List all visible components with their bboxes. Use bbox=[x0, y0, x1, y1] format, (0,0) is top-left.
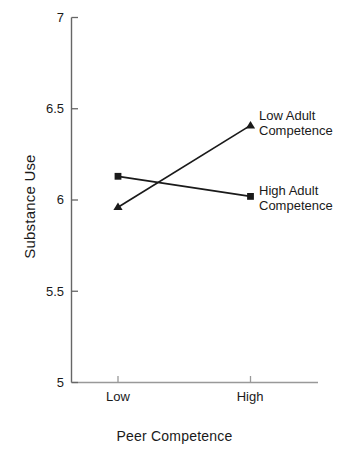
series-label-high-adult-line1: High Adult bbox=[259, 183, 333, 198]
series-label-low-adult-line1: Low Adult bbox=[259, 108, 333, 123]
y-tick-label-5-5: 5.5 bbox=[18, 285, 64, 298]
y-tick-label-7: 7 bbox=[18, 11, 64, 24]
series-line-low-adult bbox=[118, 125, 251, 207]
x-tick-label-low: Low bbox=[78, 390, 158, 403]
data-point-high-adult-low bbox=[115, 173, 122, 180]
data-point-high-adult-high bbox=[247, 193, 254, 200]
y-axis-title: Substance Use bbox=[21, 132, 38, 282]
y-tick-label-5: 5 bbox=[18, 376, 64, 389]
series-label-low-adult-line2: Competence bbox=[259, 123, 333, 138]
x-axis-title: Peer Competence bbox=[0, 428, 349, 444]
series-label-high-adult-line2: Competence bbox=[259, 198, 333, 213]
series-line-high-adult bbox=[118, 176, 251, 196]
chart-figure: 7 6.5 6 5.5 5 Low High Substance Use Pee… bbox=[0, 0, 349, 453]
series-label-low-adult: Low Adult Competence bbox=[259, 108, 333, 138]
series-label-high-adult: High Adult Competence bbox=[259, 183, 333, 213]
data-point-low-adult-low bbox=[113, 203, 122, 211]
y-tick-label-6-5: 6.5 bbox=[18, 102, 64, 115]
x-tick-label-high: High bbox=[210, 390, 290, 403]
data-point-low-adult-high bbox=[246, 121, 255, 128]
